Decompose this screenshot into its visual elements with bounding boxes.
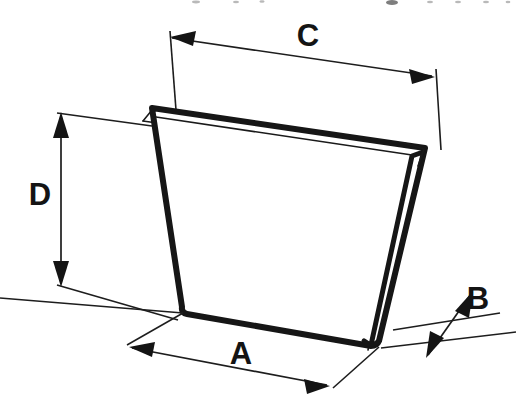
- dimension-a-extension-left: [127, 313, 183, 345]
- dimension-a-arrowhead-right: [304, 379, 330, 394]
- dimension-c-arrowhead-left: [170, 31, 196, 46]
- dimension-c-label: C: [297, 18, 319, 53]
- dimension-a-label: A: [230, 336, 252, 371]
- dimension-b-label: B: [467, 281, 489, 316]
- dimension-d-arrowhead-bottom: [53, 261, 69, 287]
- dimension-a-ground-line-right: [381, 332, 516, 348]
- block-front-face: [152, 108, 425, 346]
- dimension-a-arrowhead-left: [129, 342, 155, 357]
- block-shape: [143, 108, 425, 350]
- dimension-a-ground-line-left: [0, 298, 183, 313]
- dimension-c-arrowhead-right: [409, 69, 435, 84]
- dimension-c-extension-right: [436, 69, 441, 150]
- scan-artifacts: [192, 0, 510, 5]
- dimension-b: B: [393, 281, 500, 358]
- dimension-diagram: C D: [0, 0, 516, 418]
- dimension-c-extension-left: [170, 31, 176, 110]
- dimension-d-extension-top: [57, 113, 152, 126]
- dimension-d-extension-bottom: [57, 285, 178, 320]
- dimension-d-label: D: [29, 177, 51, 212]
- diagram-canvas: C D: [0, 0, 516, 418]
- dimension-a-extension-right: [333, 347, 379, 388]
- dimension-d-arrowhead-top: [53, 112, 69, 138]
